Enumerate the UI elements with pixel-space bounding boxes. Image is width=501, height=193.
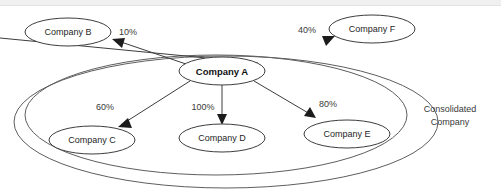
node-label-company-f: Company F [349, 24, 396, 34]
diagram-canvas: 10% 40% 60% 100% 80% Company B Company F… [0, 0, 501, 193]
arrow-head-a-to-b [112, 38, 125, 48]
node-company-e[interactable]: Company E [304, 120, 390, 148]
edge-label-a-to-e: 80% [319, 99, 337, 109]
edge-label-a-to-d: 100% [191, 102, 214, 112]
group-label-line-1: Consolidated [424, 104, 477, 114]
node-label-company-c: Company C [68, 135, 116, 145]
node-label-company-a: Company A [196, 66, 249, 77]
consolidation-diagram: 10% 40% 60% 100% 80% Company B Company F… [0, 0, 501, 193]
edge-label-a-to-b: 10% [119, 27, 137, 37]
edge-label-a-to-f: 40% [298, 25, 316, 35]
node-label-company-e: Company E [323, 129, 370, 139]
edge-label-a-to-c: 60% [96, 102, 114, 112]
edge-line-a-to-e [254, 81, 310, 114]
arrow-head-a-to-e [304, 107, 316, 118]
node-label-company-b: Company B [44, 27, 91, 37]
arrow-head-a-to-d [217, 114, 227, 125]
node-company-d[interactable]: Company D [179, 124, 265, 152]
node-company-c[interactable]: Company C [49, 126, 135, 154]
group-label-line-2: Company [431, 117, 470, 127]
arrow-head-a-to-f [322, 36, 335, 46]
node-company-a[interactable]: Company A [179, 57, 265, 85]
node-company-f[interactable]: Company F [329, 15, 415, 43]
edge-line-a-to-c [124, 81, 190, 123]
node-company-b[interactable]: Company B [25, 18, 111, 46]
node-label-company-d: Company D [198, 133, 246, 143]
